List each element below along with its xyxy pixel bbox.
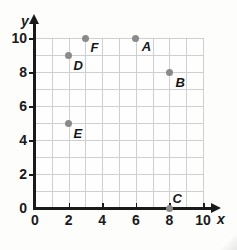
y-axis-tick xyxy=(29,174,34,176)
data-point-label: A xyxy=(142,40,151,53)
y-axis-tick-label: 0 xyxy=(5,201,27,215)
gridline-horizontal xyxy=(35,123,203,124)
x-axis-tick xyxy=(102,203,104,208)
y-axis-tick xyxy=(29,106,34,108)
gridline-horizontal xyxy=(35,55,203,56)
x-axis-tick-label: 6 xyxy=(123,213,149,227)
data-point-label: B xyxy=(175,76,184,89)
scan-artifact xyxy=(219,236,237,250)
coordinate-plane-figure: y x 02468100246810 ABCDEF xyxy=(0,0,237,250)
x-axis-tick xyxy=(69,203,71,208)
data-point xyxy=(82,35,89,42)
x-axis-tick xyxy=(136,203,138,208)
gridline-horizontal xyxy=(35,140,203,141)
gridline-horizontal xyxy=(35,38,203,39)
y-axis-tick xyxy=(29,38,34,40)
data-point-label: C xyxy=(172,192,181,205)
gridline-horizontal xyxy=(35,174,203,175)
x-axis-tick-label: 8 xyxy=(156,213,182,227)
y-axis-tick-label: 6 xyxy=(5,99,27,113)
gridline-horizontal xyxy=(35,72,203,73)
data-point xyxy=(65,120,72,127)
gridline-vertical xyxy=(203,38,204,208)
data-point-label: E xyxy=(74,127,83,140)
data-point-label: D xyxy=(74,59,83,72)
data-point xyxy=(132,35,139,42)
plot-grid-area xyxy=(35,38,203,208)
y-axis-label: y xyxy=(21,14,29,28)
y-axis-line xyxy=(33,22,36,210)
x-axis-line xyxy=(33,207,213,210)
x-axis-tick-label: 10 xyxy=(190,213,216,227)
x-axis-tick-label: 4 xyxy=(89,213,115,227)
x-axis-tick-label: 2 xyxy=(56,213,82,227)
y-axis-tick-label: 4 xyxy=(5,133,27,147)
y-axis-tick-label: 10 xyxy=(5,31,27,45)
y-axis-tick xyxy=(29,72,34,74)
data-point-label: F xyxy=(90,41,98,54)
data-point xyxy=(166,69,173,76)
x-axis-label: x xyxy=(217,212,225,226)
y-axis-tick-label: 2 xyxy=(5,167,27,181)
gridline-horizontal xyxy=(35,106,203,107)
y-axis-tick xyxy=(29,140,34,142)
gridline-horizontal xyxy=(35,157,203,158)
data-point xyxy=(65,52,72,59)
x-axis-tick xyxy=(203,203,205,208)
y-axis-tick-label: 8 xyxy=(5,65,27,79)
